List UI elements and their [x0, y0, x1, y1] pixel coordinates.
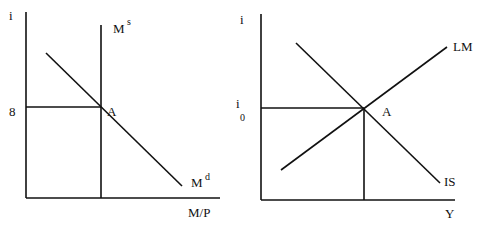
- money-market-panel: i 8 A M s M d M/P: [9, 8, 220, 220]
- money-demand-label: M: [191, 175, 203, 190]
- money-demand-curve: [46, 53, 182, 186]
- left-y-axis-label: i: [9, 8, 13, 23]
- is-lm-panel: i i 0 A LM IS Y: [236, 12, 473, 221]
- is-curve-label: IS: [444, 174, 456, 189]
- right-equilibrium-label: A: [382, 104, 392, 119]
- money-supply-superscript: s: [127, 16, 131, 27]
- left-x-axis-label: M/P: [188, 205, 210, 220]
- right-y-tick-label: i: [236, 96, 240, 111]
- is-curve: [296, 43, 440, 183]
- lm-curve-label: LM: [453, 39, 473, 54]
- right-y-axis-label: i: [240, 12, 244, 27]
- money-demand-superscript: d: [205, 171, 210, 182]
- left-equilibrium-label: A: [107, 104, 117, 119]
- diagram-canvas: i 8 A M s M d M/P i i 0 A LM IS Y: [0, 0, 479, 225]
- right-x-axis-label: Y: [445, 206, 455, 221]
- left-y-tick-label: 8: [9, 104, 16, 119]
- money-supply-label: M: [113, 21, 125, 36]
- right-y-tick-subscript: 0: [240, 112, 245, 123]
